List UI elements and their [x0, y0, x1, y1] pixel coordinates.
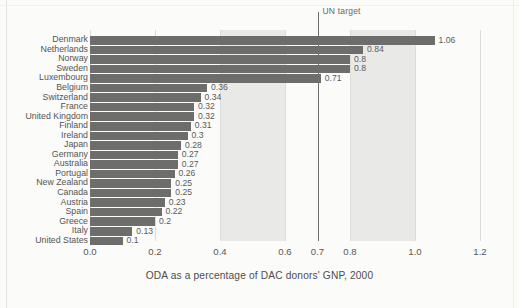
- plot-area: Denmark1.06Netherlands0.84Norway0.8Swede…: [90, 30, 480, 241]
- bar-value-label: 1.06: [439, 35, 456, 45]
- category-label: Greece: [2, 216, 88, 226]
- bar: [90, 170, 175, 179]
- bar-row: Finland0.31: [90, 122, 480, 131]
- bar: [90, 179, 171, 188]
- category-label: United Kingdom: [2, 111, 88, 121]
- bar-value-label: 0.22: [166, 206, 183, 216]
- bar-row: Germany0.27: [90, 151, 480, 160]
- category-label: Germany: [2, 149, 88, 159]
- bar-row: Belgium0.36: [90, 84, 480, 93]
- bar-row: Canada0.25: [90, 189, 480, 198]
- bar-value-label: 0.23: [169, 197, 186, 207]
- bar: [90, 84, 207, 93]
- bar-value-label: 0.25: [175, 178, 192, 188]
- un-target-line: [318, 12, 320, 241]
- category-label: Italy: [2, 225, 88, 235]
- bar-value-label: 0.27: [182, 149, 199, 159]
- category-label: Australia: [2, 158, 88, 168]
- x-tick-label: 1.0: [408, 246, 421, 257]
- x-tick-label: 0.7: [311, 246, 324, 257]
- x-tick-label: 0.4: [213, 246, 226, 257]
- category-label: Sweden: [2, 63, 88, 73]
- category-label: Spain: [2, 206, 88, 216]
- bar-row: Italy0.13: [90, 227, 480, 236]
- bar-row: United Kingdom0.32: [90, 112, 480, 121]
- gridline-1.2: [480, 30, 481, 241]
- category-label: Finland: [2, 120, 88, 130]
- bar-row: Portugal0.26: [90, 170, 480, 179]
- category-label: Canada: [2, 187, 88, 197]
- bar-row: Netherlands0.84: [90, 46, 480, 55]
- bar-row: France0.32: [90, 103, 480, 112]
- page-frame-top-rule: [0, 5, 519, 6]
- bar-row: Switzerland0.34: [90, 93, 480, 102]
- bar: [90, 141, 181, 150]
- category-label-wrap: United States: [2, 237, 88, 246]
- bar-value-label: 0.13: [136, 226, 153, 236]
- bar-row: Ireland0.3: [90, 132, 480, 141]
- category-label: Ireland: [2, 130, 88, 140]
- category-label: Denmark: [2, 34, 88, 44]
- bar-row: Spain0.22: [90, 208, 480, 217]
- bar-row: Austria0.23: [90, 198, 480, 207]
- x-tick-label: 0.0: [83, 246, 96, 257]
- bar-row: Sweden0.8: [90, 65, 480, 74]
- bar-value-label: 0.36: [211, 82, 228, 92]
- bar-value-label: 0.71: [325, 73, 342, 83]
- bar-value-label: 0.32: [198, 101, 215, 111]
- bar: [90, 112, 194, 121]
- category-label: Japan: [2, 139, 88, 149]
- bar-row: Japan0.28: [90, 141, 480, 150]
- bar: [90, 132, 188, 141]
- category-label: France: [2, 101, 88, 111]
- page-frame-right-rule: [513, 0, 514, 308]
- bar: [90, 55, 350, 64]
- bar-value-label: 0.8: [354, 63, 366, 73]
- bar-row: Luxembourg0.71: [90, 74, 480, 83]
- bar-value-label: 0.84: [367, 44, 384, 54]
- bar-row: Denmark1.06: [90, 36, 480, 45]
- bar-value-label: 0.28: [185, 140, 202, 150]
- bar: [90, 93, 201, 102]
- bar: [90, 160, 178, 169]
- bar-value-label: 0.27: [182, 159, 199, 169]
- bar-row: New Zealand0.25: [90, 179, 480, 188]
- x-tick-label: 0.8: [343, 246, 356, 257]
- category-label: Portugal: [2, 168, 88, 178]
- bar-row: Australia0.27: [90, 160, 480, 169]
- x-tick-label: 0.6: [278, 246, 291, 257]
- bar: [90, 122, 191, 131]
- un-target-label: UN target: [323, 6, 361, 16]
- bar-value-label: 0.2: [159, 216, 171, 226]
- bar: [90, 198, 165, 207]
- category-label: Belgium: [2, 82, 88, 92]
- category-label: Netherlands: [2, 44, 88, 54]
- category-label: Luxembourg: [2, 72, 88, 82]
- bar: [90, 74, 321, 83]
- bar-value-label: 0.3: [192, 130, 204, 140]
- x-tick-label: 1.2: [473, 246, 486, 257]
- category-label: New Zealand: [2, 177, 88, 187]
- bar: [90, 189, 171, 198]
- bar-value-label: 0.8: [354, 54, 366, 64]
- chart-page: Denmark1.06Netherlands0.84Norway0.8Swede…: [0, 0, 519, 308]
- bar: [90, 103, 194, 112]
- category-label: United States: [2, 235, 88, 245]
- x-tick-label: 0.2: [148, 246, 161, 257]
- bar-value-label: 0.32: [198, 111, 215, 121]
- bar-value-label: 0.25: [175, 187, 192, 197]
- bar-value-label: 0.26: [179, 168, 196, 178]
- bar: [90, 46, 363, 55]
- category-label: Switzerland: [2, 92, 88, 102]
- bar-row: Norway0.8: [90, 55, 480, 64]
- category-label: Austria: [2, 197, 88, 207]
- bar-value-label: 0.31: [195, 120, 212, 130]
- bar-value-label: 0.34: [205, 92, 222, 102]
- chart-title: ODA as a percentage of DAC donors' GNP, …: [0, 270, 519, 281]
- bar: [90, 208, 162, 217]
- category-label: Norway: [2, 53, 88, 63]
- bar: [90, 65, 350, 74]
- x-axis: 0.00.20.40.60.70.81.01.2: [90, 241, 480, 263]
- bar: [90, 151, 178, 160]
